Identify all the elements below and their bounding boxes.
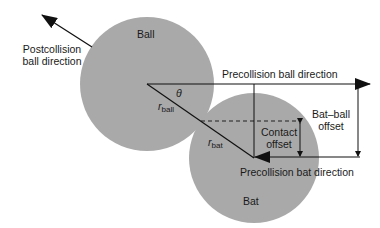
collision-diagram: Ball Bat Postcollision ball direction Pr… <box>0 0 380 228</box>
r-bat-label: rbat <box>208 136 223 152</box>
bat-ball-offset-label: Bat–ball offset <box>308 108 354 132</box>
contact-offset-label: Contact offset <box>258 126 300 150</box>
precollision-bat-label: Precollision bat direction <box>240 166 354 178</box>
precollision-ball-label: Precollision ball direction <box>222 68 338 80</box>
theta-label: θ <box>176 87 182 99</box>
r-ball-label: rball <box>158 100 174 116</box>
ball-label: Ball <box>137 28 155 40</box>
bat-label: Bat <box>243 195 259 207</box>
postcollision-label: Postcollision ball direction <box>16 43 88 67</box>
